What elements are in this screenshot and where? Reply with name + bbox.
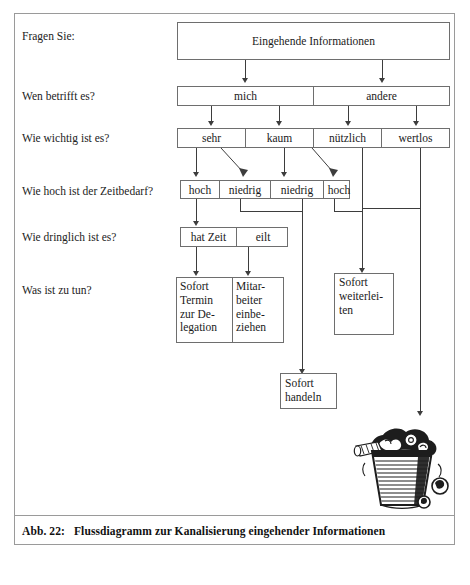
node-eilt[interactable]: eilt: [236, 228, 289, 246]
node-niedrig-2[interactable]: niedrig: [270, 181, 323, 198]
arrowhead-wertlos-to-bin: [417, 411, 423, 416]
connector-wertlos-to-bin: [420, 148, 421, 413]
arrowhead-eilt-to-mitarbeiter: [245, 271, 251, 276]
connector-nuetzlich-down: [362, 148, 363, 208]
node-label: Sofort handeln: [281, 374, 336, 407]
connector-hoch2-jog: [334, 211, 362, 212]
row-zeitbedarf: hoch niedrig niedrig hoch: [180, 180, 350, 199]
connector-to-sofort-weiterleiten: [362, 208, 363, 270]
node-label: Sofort weiterlei- ten: [335, 274, 393, 319]
row-was-ist-zu-tun-left: Sofort Termin zur De- legation Mitar- be…: [176, 277, 284, 343]
node-sofort-handeln[interactable]: Sofort handeln: [280, 373, 337, 409]
node-sofort-termin-delegation[interactable]: Sofort Termin zur De- legation: [177, 278, 232, 342]
node-niedrig-1[interactable]: niedrig: [219, 181, 270, 198]
arrowhead-hoch1-to-dringlichkeit: [193, 221, 199, 226]
connector-eilt-to-mitarbeiter: [248, 247, 249, 273]
node-label: Sofort Termin zur De- legation: [177, 278, 232, 337]
node-hoch-2[interactable]: hoch: [323, 181, 354, 198]
node-mitarbeiter-einbeziehen[interactable]: Mitar- beiter einbe- ziehen: [232, 278, 285, 342]
connector-hoch2-down: [334, 199, 335, 211]
row-wie-dringlich: hat Zeit eilt: [180, 227, 288, 247]
node-hoch-1[interactable]: hoch: [181, 181, 219, 198]
connector-niedrig1-jog: [240, 211, 303, 212]
figure-caption: Abb. 22:Flussdiagramm zur Kanalisierung …: [22, 525, 447, 537]
node-hat-zeit[interactable]: hat Zeit: [181, 228, 236, 246]
connector-niedrig2-to-sofort-handeln: [302, 199, 303, 371]
wastebasket-icon: [352, 420, 452, 510]
connector-hatzeit-to-delegation: [196, 247, 197, 273]
caption-text: Flussdiagramm zur Kanalisierung eingehen…: [74, 525, 385, 537]
caption-number: Abb. 22:: [22, 525, 65, 537]
connector-nuetzlich-join: [362, 208, 421, 209]
caption-divider: [14, 515, 455, 516]
figure-page: Fragen Sie: Wen betrifft es? Wie wichtig…: [0, 0, 470, 585]
connector-hoch1-to-dringlichkeit: [196, 199, 197, 223]
arrowhead-hatzeit-to-delegation: [193, 271, 199, 276]
node-label: Mitar- beiter einbe- ziehen: [233, 278, 285, 337]
connector-niedrig1-down: [240, 199, 241, 211]
node-sofort-weiterleiten[interactable]: Sofort weiterlei- ten: [334, 273, 394, 335]
